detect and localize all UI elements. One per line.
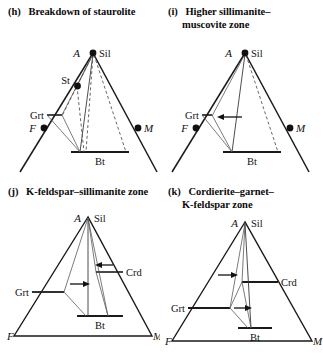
panel-i-diagram: A Sil F M Grt Bt xyxy=(160,0,323,180)
panel-j-label-F: F xyxy=(6,330,14,342)
figure-panel-grid: (h) Breakdown of staurolite xyxy=(0,0,323,361)
panel-j-tie-a-crd xyxy=(88,218,96,272)
panel-i-right-leg xyxy=(245,53,309,172)
panel-h-right-leg xyxy=(93,53,157,172)
panel-h-point-f xyxy=(41,125,48,132)
panel-i-tie-grt-bt xyxy=(202,115,232,152)
panel-k-arrow-crd xyxy=(218,272,238,278)
panel-h-label-A: A xyxy=(72,47,80,59)
panel-i-tie-a-bt xyxy=(232,54,245,152)
panel-h-point-sil xyxy=(90,50,97,57)
panel-h-label-Grt: Grt xyxy=(30,110,44,121)
panel-j-diagram: A Sil F M Grt Crd Bt xyxy=(0,180,160,361)
panel-k-diagram: A Sil F M Grt Crd Bt xyxy=(160,180,323,361)
panel-h-tie-a-bt xyxy=(80,54,93,152)
panel-j-label-Grt: Grt xyxy=(15,287,29,298)
panel-j-tie-a-grt xyxy=(64,218,88,292)
panel-h-label-F: F xyxy=(28,122,36,134)
panel-i-point-m xyxy=(287,125,294,132)
panel-j-arrow-grt xyxy=(70,281,90,287)
panel-j: (j) K-feldspar–sillimanite zone xyxy=(0,180,160,361)
panel-k-label-Bt: Bt xyxy=(250,332,260,343)
panel-j-label-Crd: Crd xyxy=(126,267,143,278)
panel-i-arrow-grt xyxy=(217,114,242,120)
panel-h-label-Bt: Bt xyxy=(95,156,105,167)
panel-j-tie-a-btright xyxy=(88,218,108,316)
panel-h-label-M: M xyxy=(143,122,154,134)
panel-i-label-Grt: Grt xyxy=(185,110,199,121)
panel-k-label-A: A xyxy=(230,217,238,229)
panel-h-diagram: A Sil F M St Grt Bt xyxy=(0,0,160,180)
panel-i-label-Bt: Bt xyxy=(247,156,257,167)
panel-i-label-A: A xyxy=(224,47,232,59)
panel-j-tie-grt-bt xyxy=(64,292,86,316)
panel-h-point-st xyxy=(74,83,81,90)
panel-i-label-F: F xyxy=(180,122,188,134)
panel-i-label-Sil: Sil xyxy=(251,48,263,59)
panel-h-point-m xyxy=(135,125,142,132)
panel-i-label-M: M xyxy=(295,122,306,134)
panel-h: (h) Breakdown of staurolite xyxy=(0,0,160,180)
panel-i-point-sil xyxy=(242,50,249,57)
panel-k-label-Sil: Sil xyxy=(251,218,263,229)
panel-j-tie-crd-bt xyxy=(96,272,108,316)
panel-k-label-Crd: Crd xyxy=(281,277,298,288)
panel-i-point-f xyxy=(193,125,200,132)
panel-h-tie-grt-bt xyxy=(47,115,80,152)
panel-h-label-Sil: Sil xyxy=(99,48,111,59)
panel-k-label-F: F xyxy=(164,335,172,347)
panel-j-label-Sil: Sil xyxy=(94,213,106,224)
panel-k-tie-grt-crd xyxy=(230,282,242,308)
panel-i-tie-a-grt xyxy=(212,54,245,116)
panel-j-label-A: A xyxy=(73,212,81,224)
panel-k-label-M: M xyxy=(312,335,323,347)
panel-k-label-Grt: Grt xyxy=(171,303,185,314)
panel-k-tie-grt-bt xyxy=(230,308,248,328)
panel-i: (i) Higher sillimanite– muscovite zone xyxy=(160,0,323,180)
panel-h-label-St: St xyxy=(61,75,70,86)
panel-i-tie-grt2-bt xyxy=(212,115,232,152)
panel-j-label-M: M xyxy=(152,330,160,342)
panel-i-dashed-a-bt xyxy=(246,55,278,152)
panel-h-dashed-a-btright xyxy=(94,55,126,152)
panel-h-tie-grt2-bt xyxy=(62,115,80,152)
panel-i-left-leg xyxy=(172,53,245,172)
panel-h-dashed-st-bt xyxy=(77,86,84,152)
panel-j-label-Bt: Bt xyxy=(95,320,105,331)
panel-k: (k) Cordierite–garnet– K-feldspar zone xyxy=(160,180,323,361)
panel-h-dashed-a-bt xyxy=(86,55,93,152)
